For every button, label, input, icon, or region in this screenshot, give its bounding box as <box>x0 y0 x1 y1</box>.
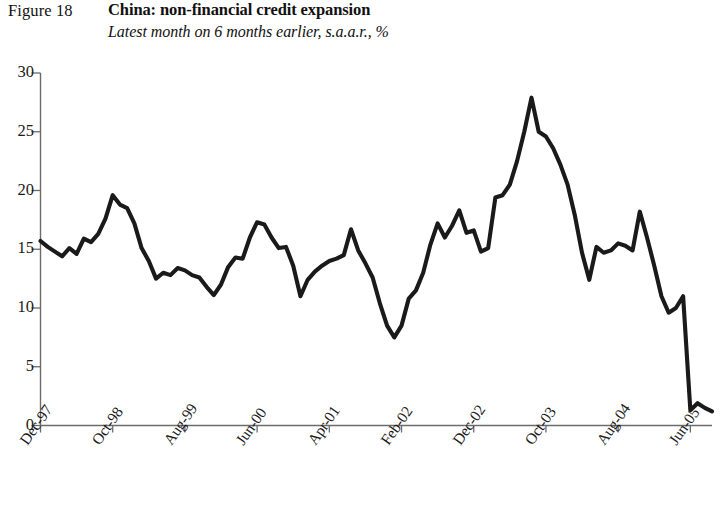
y-tick-label: 25 <box>0 121 34 141</box>
y-tick-label: 5 <box>0 356 34 376</box>
y-tick-label: 10 <box>0 297 34 317</box>
y-tick-label: 15 <box>0 238 34 258</box>
y-tick-label: 20 <box>0 180 34 200</box>
y-tick-label: 30 <box>0 62 34 82</box>
credit-expansion-series-line <box>41 98 713 412</box>
chart-plot-area: 051015202530 Dec-97Oct-98Aug-99Jun-00Apr… <box>0 0 723 505</box>
